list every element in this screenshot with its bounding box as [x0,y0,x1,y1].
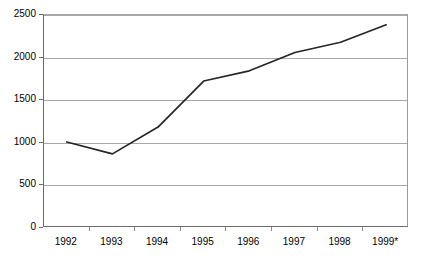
y-tick-mark [39,14,43,15]
series-polyline [67,25,386,154]
y-tick-mark [39,142,43,143]
x-tick-mark [317,227,318,231]
x-tick-mark [89,227,90,231]
y-tick-mark [39,57,43,58]
y-tick-mark [39,227,43,228]
line-chart: 2500 2000 1500 1000 500 0 1992 1993 1994… [0,0,422,263]
y-tick-label: 2000 [0,52,36,62]
x-axis-labels: 1992 1993 1994 1995 1996 1997 1998 1999* [43,236,408,250]
x-tick-label-1996: 1996 [226,236,272,250]
y-tick-label: 500 [0,179,36,189]
y-tick-mark [39,184,43,185]
x-tick-label-1999: 1999* [362,236,408,250]
x-tick-mark [180,227,181,231]
x-tick-label-1992: 1992 [43,236,89,250]
data-series-line [44,15,409,228]
x-tick-label-1994: 1994 [134,236,180,250]
y-tick-label: 0 [0,222,36,232]
plot-area [43,14,408,227]
x-tick-label-1997: 1997 [271,236,317,250]
x-tick-mark [134,227,135,231]
x-tick-label-1998: 1998 [317,236,363,250]
y-tick-label: 1000 [0,137,36,147]
x-tick-mark [225,227,226,231]
y-tick-mark [39,99,43,100]
x-tick-label-1995: 1995 [180,236,226,250]
x-tick-label-1993: 1993 [89,236,135,250]
x-tick-mark [362,227,363,231]
y-tick-label: 2500 [0,9,36,19]
y-tick-label: 1500 [0,94,36,104]
x-tick-mark [271,227,272,231]
